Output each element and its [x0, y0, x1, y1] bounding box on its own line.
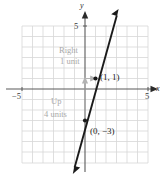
point-label-1-1: (1, 1)	[100, 73, 120, 82]
point-label-0-neg3: (0, −3)	[90, 127, 115, 136]
coordinate-plane-svg	[0, 0, 168, 178]
point-0-neg3	[83, 118, 87, 122]
x-axis	[6, 86, 158, 92]
point-1-1	[93, 76, 97, 80]
y-axis-label: y	[80, 2, 84, 10]
rise-annotation-line2: 4 units	[44, 110, 67, 119]
x-positive-tick-label: 5	[145, 92, 149, 101]
y-positive-tick-label: 5	[74, 22, 78, 31]
graph-figure: x y −5 5 5 (1, 1) (0, −3) Right 1 unit U…	[0, 0, 168, 178]
rise-arrow	[82, 77, 88, 121]
rise-annotation-line1: Up	[51, 97, 61, 106]
x-axis-label: x	[156, 85, 160, 93]
x-negative-tick-label: −5	[12, 92, 21, 101]
run-annotation-line2: 1 unit	[60, 57, 80, 66]
run-annotation-line1: Right	[59, 46, 78, 55]
